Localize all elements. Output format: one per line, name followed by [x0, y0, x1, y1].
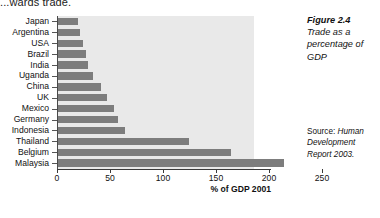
- bar: [58, 138, 189, 145]
- bar: [58, 83, 101, 90]
- bar: [58, 40, 83, 47]
- bar: [58, 116, 118, 123]
- category-label: Mexico: [0, 103, 53, 114]
- category-label: Germany: [0, 114, 53, 125]
- x-tick-label: 100: [156, 173, 170, 183]
- figure-page: ...wards trade. JapanArgentinaUSABrazilI…: [0, 0, 380, 218]
- x-tick-label: 250: [315, 173, 329, 183]
- category-label: Malaysia: [0, 158, 53, 169]
- bar-row: [58, 27, 254, 38]
- figure-number: Figure 2.4: [307, 14, 379, 26]
- figure-caption: Figure 2.4 Trade as a percentage of GDP: [307, 14, 379, 63]
- x-tick-label: 0: [55, 173, 60, 183]
- x-tick: [322, 169, 323, 173]
- bar: [58, 127, 125, 134]
- bar-row: [58, 81, 254, 92]
- bar-row: [58, 16, 254, 27]
- bar-row: [58, 147, 254, 158]
- bar: [58, 159, 284, 166]
- bar-row: [58, 114, 254, 125]
- category-label: Uganda: [0, 70, 53, 81]
- x-tick: [269, 169, 270, 173]
- category-label: Argentina: [0, 27, 53, 38]
- bar-row: [58, 38, 254, 49]
- bar-row: [58, 125, 254, 136]
- bar: [58, 72, 93, 79]
- bar: [58, 105, 114, 112]
- category-label: China: [0, 81, 53, 92]
- x-axis-title: % of GDP 2001: [0, 184, 271, 194]
- bar-chart-figure: JapanArgentinaUSABrazilIndiaUgandaChinaU…: [0, 14, 286, 200]
- bar: [58, 149, 231, 156]
- x-tick: [110, 169, 111, 173]
- category-label: UK: [0, 92, 53, 103]
- x-tick-label: 200: [262, 173, 276, 183]
- x-axis-ticks: [57, 169, 271, 173]
- bar-row: [58, 92, 254, 103]
- source-label: Source:: [307, 127, 335, 136]
- x-tick-label: 150: [209, 173, 223, 183]
- category-label: Japan: [0, 16, 53, 27]
- running-text-fragment: ...wards trade.: [0, 0, 71, 8]
- x-tick: [57, 169, 58, 173]
- category-label: India: [0, 60, 53, 71]
- bar: [58, 18, 78, 25]
- x-tick: [216, 169, 217, 173]
- category-axis-labels: JapanArgentinaUSABrazilIndiaUgandaChinaU…: [0, 16, 53, 168]
- bar: [58, 29, 80, 36]
- plot-area: [57, 16, 254, 169]
- source-note: Source: Human Development Report 2003.: [307, 126, 380, 160]
- x-tick: [163, 169, 164, 173]
- category-label: Belgium: [0, 147, 53, 158]
- bar-row: [58, 136, 254, 147]
- figure-caption-text: Trade as a percentage of GDP: [307, 27, 363, 61]
- bar-row: [58, 49, 254, 60]
- category-label: Indonesia: [0, 125, 53, 136]
- category-label: Brazil: [0, 49, 53, 60]
- bar-row: [58, 71, 254, 82]
- x-tick-label: 50: [105, 173, 115, 183]
- category-label: Thailand: [0, 136, 53, 147]
- bar-row: [58, 103, 254, 114]
- bar: [58, 94, 107, 101]
- bar-row: [58, 60, 254, 71]
- bar-row: [58, 158, 254, 169]
- bar: [58, 50, 86, 57]
- bar: [58, 61, 88, 68]
- category-label: USA: [0, 38, 53, 49]
